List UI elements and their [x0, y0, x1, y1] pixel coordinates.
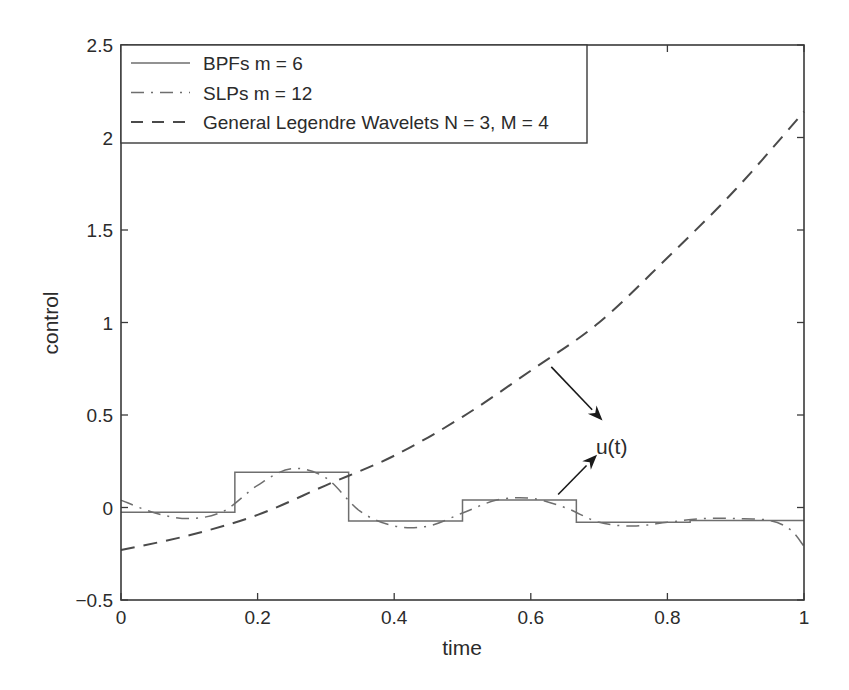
series-line — [121, 472, 804, 522]
x-tick-label: 0.2 — [244, 607, 270, 628]
annotation-label: u(t) — [596, 435, 628, 458]
x-tick-label: 1 — [799, 607, 810, 628]
y-axis-label: control — [39, 291, 62, 354]
annotation-arrow — [558, 465, 586, 494]
y-tick-label: 0 — [102, 498, 113, 519]
y-tick-label: 0.5 — [87, 405, 113, 426]
y-tick-label: 2.5 — [87, 35, 113, 56]
series-layer — [121, 112, 804, 550]
legend-label: General Legendre Wavelets N = 3, M = 4 — [203, 112, 549, 133]
y-tick-labels: −0.500.511.522.5 — [75, 35, 113, 611]
x-tick-label: 0.4 — [381, 607, 408, 628]
legend: BPFs m = 6SLPs m = 12General Legendre Wa… — [121, 45, 587, 143]
x-tick-label: 0.8 — [654, 607, 680, 628]
line-chart: 00.20.40.60.81 −0.500.511.522.5 time con… — [0, 0, 849, 690]
x-tick-label: 0.6 — [518, 607, 544, 628]
y-tick-label: 1.5 — [87, 220, 113, 241]
x-tick-labels: 00.20.40.60.81 — [116, 607, 810, 628]
series-line — [121, 112, 804, 550]
y-tick-label: −0.5 — [75, 590, 113, 611]
annotation-layer: u(t) — [551, 367, 627, 495]
y-tick-label: 2 — [102, 128, 113, 149]
legend-label: BPFs m = 6 — [203, 53, 303, 74]
annotation-arrow — [551, 367, 592, 410]
legend-label: SLPs m = 12 — [203, 83, 312, 104]
x-axis-label: time — [442, 636, 482, 659]
x-tick-label: 0 — [116, 607, 127, 628]
y-tick-label: 1 — [102, 313, 113, 334]
